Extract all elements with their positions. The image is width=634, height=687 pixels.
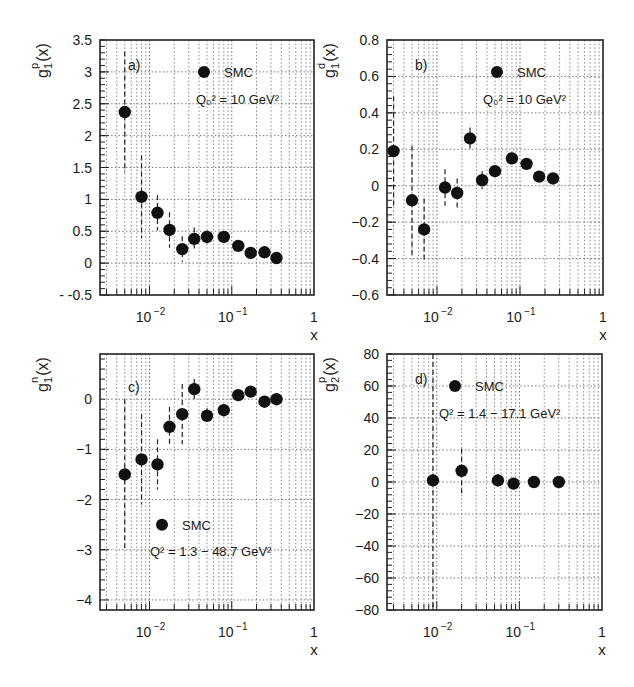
data-point [151, 207, 163, 219]
y-tick-label: - -0.5 [59, 287, 92, 303]
y-tick-label: −60 [355, 570, 379, 586]
x-axis-title: x [310, 641, 318, 658]
x-tick-label: 1 [310, 309, 318, 325]
figure-2x2-spin-structure-functions: - -0.500.511.522.533.510−210−11xg1p(x)a)… [0, 0, 634, 687]
x-tick-label: 1 [599, 309, 607, 325]
kinematics-annotation: Q² = 1.4 − 17.1 GeV² [439, 406, 561, 421]
y-tick-label: −1 [76, 441, 92, 457]
x-tick-label: 10 [136, 624, 152, 640]
kinematics-annotation: Q₀² = 10 GeV² [483, 92, 567, 107]
x-tick-label: 1 [598, 624, 606, 640]
data-point [547, 172, 559, 184]
y-axis-title: g2p(x) [315, 357, 341, 392]
x-tick-label: 1 [310, 624, 318, 640]
legend-marker-icon [449, 380, 461, 392]
x-tick-label: 10 [506, 624, 522, 640]
x-axis-title: x [599, 326, 607, 343]
y-tick-label: −2 [76, 492, 92, 508]
y-tick-label: −80 [355, 602, 379, 618]
data-point [135, 453, 147, 465]
y-tick-label: 0.6 [360, 68, 380, 84]
x-tick-exponent: −2 [441, 306, 453, 317]
kinematics-annotation: Q² = 1.3 − 48.7 GeV² [150, 544, 272, 559]
data-point [476, 174, 488, 186]
legend-label: SMC [517, 65, 546, 80]
data-point [489, 165, 501, 177]
panel-label: a) [128, 57, 140, 73]
x-axis-title: x [598, 641, 606, 658]
y-tick-label: 80 [363, 346, 379, 362]
y-tick-label: 1 [84, 191, 92, 207]
y-tick-label: 60 [363, 378, 379, 394]
data-point [201, 410, 213, 422]
data-point [270, 252, 282, 264]
legend-label: SMC [182, 518, 211, 533]
y-tick-label: 0.4 [360, 105, 380, 121]
data-point [451, 187, 463, 199]
data-point [176, 408, 188, 420]
panel-b: −0.6−0.4−0.200.20.40.60.810−210−11xg1d(x… [315, 32, 607, 343]
y-tick-label: 0.8 [360, 32, 380, 48]
data-point [201, 231, 213, 243]
y-tick-label: 3.5 [73, 32, 93, 48]
x-tick-exponent: −1 [236, 621, 248, 632]
data-point [533, 170, 545, 182]
panel-a: - -0.500.511.522.533.510−210−11xg1p(x)a)… [28, 32, 318, 343]
y-tick-label: −3 [76, 542, 92, 558]
y-tick-label: 3 [84, 64, 92, 80]
panel-c: −4−3−2−1010−210−11xg1n(x)c)SMCQ² = 1.3 −… [28, 354, 318, 658]
data-point [520, 158, 532, 170]
y-tick-label: −0.4 [351, 251, 379, 267]
y-axis-title: g1p(x) [28, 43, 54, 78]
y-tick-label: 40 [363, 410, 379, 426]
data-point [455, 465, 467, 477]
data-point [507, 477, 519, 489]
y-tick-label: 0 [371, 474, 379, 490]
data-point [439, 181, 451, 193]
y-axis-title: g1n(x) [28, 357, 54, 392]
data-point [258, 395, 270, 407]
y-tick-label: 20 [363, 442, 379, 458]
panel-d: −80−60−40−2002040608010−210−11xg2p(x)d)S… [315, 346, 606, 658]
data-point [528, 476, 540, 488]
x-tick-label: 10 [218, 309, 234, 325]
data-point [218, 404, 230, 416]
y-tick-label: 0.2 [360, 141, 380, 157]
y-tick-label: 0 [84, 255, 92, 271]
legend-marker-icon [198, 66, 210, 78]
data-point [553, 476, 565, 488]
x-tick-exponent: −2 [154, 621, 166, 632]
data-point [258, 246, 270, 258]
legend-marker-icon [491, 66, 503, 78]
data-point [218, 231, 230, 243]
svg-text:g1n(x): g1n(x) [28, 357, 54, 392]
x-tick-label: 10 [136, 309, 152, 325]
data-point [270, 393, 282, 405]
x-tick-exponent: −1 [524, 306, 536, 317]
x-tick-exponent: −1 [236, 306, 248, 317]
y-tick-label: −0.2 [351, 214, 379, 230]
data-point [245, 247, 257, 259]
data-point [163, 224, 175, 236]
data-point [387, 145, 399, 157]
data-point [232, 389, 244, 401]
y-tick-label: −0.6 [351, 287, 379, 303]
x-tick-label: 10 [423, 309, 439, 325]
chart-canvas: - -0.500.511.522.533.510−210−11xg1p(x)a)… [0, 0, 634, 687]
data-point [163, 421, 175, 433]
y-tick-label: 0 [84, 391, 92, 407]
y-tick-label: −20 [355, 506, 379, 522]
data-point [119, 106, 131, 118]
legend: SMC [198, 65, 253, 80]
panel-label: b) [415, 57, 427, 73]
data-point [188, 233, 200, 245]
y-tick-label: 1.5 [73, 160, 93, 176]
panel-label: c) [128, 379, 140, 395]
y-tick-label: 2 [84, 128, 92, 144]
x-tick-exponent: −1 [524, 621, 536, 632]
data-point [245, 385, 257, 397]
legend-label: SMC [224, 65, 253, 80]
x-axis-title: x [310, 326, 318, 343]
legend: SMC [156, 518, 211, 533]
data-point [119, 468, 131, 480]
